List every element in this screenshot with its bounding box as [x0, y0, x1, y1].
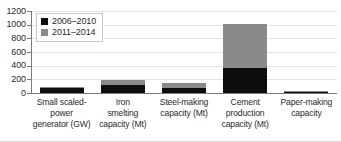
- bar-group[interactable]: [223, 11, 267, 93]
- legend-item[interactable]: 2011–2014: [41, 27, 96, 38]
- x-axis-label-line: power: [28, 108, 95, 119]
- legend-item-label: 2011–2014: [52, 28, 95, 37]
- chart-legend: 2006–20102011–2014: [36, 13, 103, 42]
- y-axis-tick: [27, 25, 31, 26]
- x-axis-label-line: capacity (Mt): [150, 108, 217, 119]
- x-axis-label-line: Cement: [212, 97, 279, 108]
- bar-segment[interactable]: [101, 80, 145, 85]
- bar-segment[interactable]: [162, 83, 206, 88]
- y-axis-tick-label: 800: [0, 34, 26, 43]
- bar-segment[interactable]: [40, 88, 84, 93]
- x-axis-label-line: generator (GW): [28, 119, 95, 130]
- axis-baseline: [31, 93, 337, 94]
- x-axis-labels: Small scaled-powergenerator (GW)Ironsmel…: [31, 97, 337, 142]
- x-axis-label-line: capacity: [273, 108, 340, 119]
- y-axis-tick: [27, 79, 31, 80]
- x-axis-label-line: capacity (Mt): [212, 119, 279, 130]
- legend-item[interactable]: 2006–2010: [41, 16, 96, 27]
- y-axis-tick: [27, 38, 31, 39]
- y-axis-tick: [27, 11, 31, 12]
- bar-segment[interactable]: [40, 87, 84, 88]
- bar-segment[interactable]: [284, 92, 328, 93]
- bar-segment[interactable]: [162, 88, 206, 93]
- bar-segment[interactable]: [101, 85, 145, 93]
- legend-swatch-icon: [41, 29, 48, 36]
- x-axis-label-line: production: [212, 108, 279, 119]
- y-axis-tick-label: 1000: [0, 20, 26, 29]
- bar-chart-figure: 120010008006004002000 2006–20102011–2014…: [0, 0, 341, 142]
- y-axis-tick-label: 1200: [0, 7, 26, 16]
- bar-segment[interactable]: [284, 91, 328, 92]
- y-axis-tick-label: 600: [0, 48, 26, 57]
- y-axis-tick-label: 400: [0, 61, 26, 70]
- bar-group[interactable]: [284, 11, 328, 93]
- bar-group[interactable]: [101, 11, 145, 93]
- x-axis-label-line: Paper-making: [273, 97, 340, 108]
- x-axis-label-line: smelting: [89, 108, 156, 119]
- x-axis-label-line: Iron: [89, 97, 156, 108]
- y-axis-line: [31, 11, 32, 94]
- x-axis-label-line: Steel-making: [150, 97, 217, 108]
- x-axis-category-label: Steel-makingcapacity (Mt): [150, 97, 217, 119]
- bar-group[interactable]: [162, 11, 206, 93]
- legend-swatch-icon: [41, 18, 48, 25]
- x-axis-category-label: Ironsmeltingcapacity (Mt): [89, 97, 156, 130]
- y-axis-tick: [27, 66, 31, 67]
- bar-segment[interactable]: [223, 68, 267, 93]
- y-axis-tick: [27, 93, 31, 94]
- x-axis-category-label: Paper-makingcapacity: [273, 97, 340, 119]
- x-axis-category-label: Small scaled-powergenerator (GW): [28, 97, 95, 130]
- y-axis-labels: 120010008006004002000: [0, 0, 26, 142]
- bar-segment[interactable]: [223, 24, 267, 68]
- x-axis-label-line: Small scaled-: [28, 97, 95, 108]
- y-axis-tick: [27, 52, 31, 53]
- x-axis-category-label: Cementproductioncapacity (Mt): [212, 97, 279, 130]
- legend-item-label: 2006–2010: [52, 17, 96, 26]
- y-axis-tick-label: 200: [0, 75, 26, 84]
- x-axis-label-line: capacity (Mt): [89, 119, 156, 130]
- y-axis-tick-label: 0: [0, 89, 26, 98]
